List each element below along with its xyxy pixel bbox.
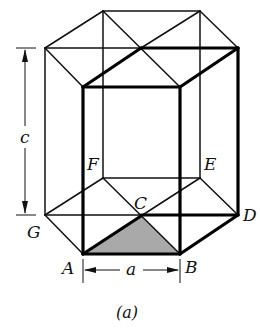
label-B: B	[184, 257, 198, 277]
thin-verticals	[45, 11, 200, 215]
figure-caption: (a)	[116, 303, 138, 322]
label-c: c	[20, 127, 30, 147]
label-F: F	[86, 154, 100, 174]
primitive-cell-outline	[83, 48, 238, 254]
label-D: D	[242, 205, 257, 225]
label-a: a	[126, 259, 136, 279]
label-E: E	[203, 154, 217, 174]
label-A: A	[60, 258, 74, 278]
label-C: C	[134, 193, 147, 213]
hcp-unit-cell-diagram: c a A B C D E F G (a)	[0, 0, 260, 330]
label-G: G	[27, 222, 41, 242]
